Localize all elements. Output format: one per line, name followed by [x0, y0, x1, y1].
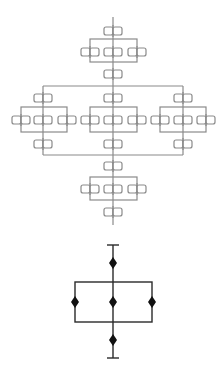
component-block: [151, 114, 169, 126]
component-block: [58, 114, 76, 126]
component-block: [174, 114, 192, 126]
component-block: [104, 160, 122, 172]
component-block: [81, 114, 99, 126]
branch: [151, 86, 215, 155]
reliability-diagram: [0, 0, 222, 368]
component-block: [197, 114, 215, 126]
upper-block-diagram: [12, 17, 215, 225]
parallel-group: [12, 107, 76, 132]
component-block: [174, 138, 192, 150]
component-block: [34, 114, 52, 126]
component-block: [128, 46, 146, 58]
component-block: [81, 46, 99, 58]
component-block: [34, 92, 52, 104]
component-block: [128, 114, 146, 126]
node-diamond-icon: [109, 334, 117, 346]
component-block: [104, 92, 122, 104]
component-block: [104, 114, 122, 126]
branch: [81, 86, 146, 155]
component-block: [81, 183, 99, 195]
node-diamond-icon: [71, 296, 79, 308]
branch: [12, 86, 76, 155]
component-block: [104, 138, 122, 150]
component-block: [104, 206, 122, 218]
component-block: [104, 46, 122, 58]
component-block: [128, 183, 146, 195]
node-diamond-icon: [148, 296, 156, 308]
node-diamond-icon: [109, 257, 117, 269]
component-block: [104, 25, 122, 37]
component-block: [174, 92, 192, 104]
node-diamond-icon: [109, 296, 117, 308]
component-block: [34, 138, 52, 150]
component-block: [12, 114, 30, 126]
component-block: [104, 183, 122, 195]
lower-simplified-diagram: [71, 245, 156, 358]
component-block: [104, 68, 122, 80]
